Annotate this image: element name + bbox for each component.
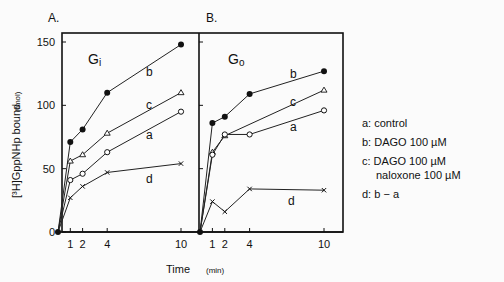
legend-item-d: d: b − a xyxy=(362,187,461,201)
gi-title: Gi xyxy=(88,51,101,68)
svg-text:150: 150 xyxy=(37,36,55,48)
y-axis-label: [³H]GppNHp bound xyxy=(10,104,22,198)
series-label-c-a: c xyxy=(146,98,152,112)
series-label-d-a: d xyxy=(146,172,153,186)
series-label-a-a: a xyxy=(146,128,153,142)
series-label-c-b: c xyxy=(290,95,296,109)
legend-item-a: a: control xyxy=(362,116,461,130)
series-label-b-b: b xyxy=(290,67,297,81)
legend: a: control b: DAGO 100 µM c: DAGO 100 µM… xyxy=(362,116,461,206)
svg-text:10: 10 xyxy=(175,238,187,250)
series-d xyxy=(200,187,326,232)
y-axis-unit: (fmol) xyxy=(13,91,22,112)
go-title: Go xyxy=(228,51,245,68)
series-b xyxy=(58,42,184,232)
svg-text:100: 100 xyxy=(37,99,55,111)
x-axis-unit: (min) xyxy=(206,266,225,275)
series-label-a-b: a xyxy=(290,120,297,134)
svg-text:2: 2 xyxy=(222,238,228,250)
series-label-b-a: b xyxy=(146,65,153,79)
svg-text:4: 4 xyxy=(247,238,253,250)
legend-item-b: b: DAGO 100 µM xyxy=(362,135,461,149)
series-d xyxy=(58,161,183,232)
legend-item-c: c: DAGO 100 µM xyxy=(362,154,461,168)
svg-text:1: 1 xyxy=(67,238,73,250)
svg-text:1: 1 xyxy=(209,238,215,250)
legend-item-c-cont: naloxone 100 µM xyxy=(362,168,461,182)
svg-text:0: 0 xyxy=(49,226,55,238)
series-c xyxy=(58,90,184,232)
series-c xyxy=(200,87,327,232)
svg-text:10: 10 xyxy=(318,238,330,250)
panel-b-label: B. xyxy=(206,11,217,25)
svg-text:2: 2 xyxy=(80,238,86,250)
panel-a-label: A. xyxy=(48,11,59,25)
plot-frame: 0501001501241012410 xyxy=(37,33,343,250)
series-a xyxy=(200,108,327,232)
plot-series xyxy=(55,42,327,235)
x-axis-label: Time xyxy=(166,263,190,275)
svg-text:4: 4 xyxy=(104,238,110,250)
svg-text:50: 50 xyxy=(43,163,55,175)
series-label-d-b: d xyxy=(288,194,295,208)
